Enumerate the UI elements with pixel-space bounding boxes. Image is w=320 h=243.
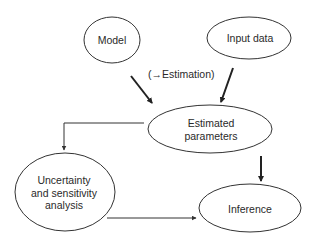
inference-label: Inference [228, 203, 272, 216]
uncertainty-text-line3: analysis [31, 199, 97, 212]
input-data-text: Input data [227, 32, 274, 44]
input-data-label: Input data [227, 32, 274, 45]
uncertainty-label: Uncertainty and sensitivity analysis [31, 174, 97, 212]
estimation-edge-label: (→Estimation) [148, 68, 215, 80]
uncertainty-text-line1: Uncertainty [31, 174, 97, 187]
arrow-model-to-estimated [131, 76, 152, 103]
inference-text: Inference [228, 203, 272, 215]
estimated-text-line1: Estimated [184, 117, 237, 130]
estimated-parameters-label: Estimated parameters [184, 117, 237, 142]
model-text: Model [98, 34, 127, 46]
uncertainty-text-line2: and sensitivity [31, 187, 97, 200]
arrow-input-to-estimated [221, 68, 233, 102]
arrow-estimated-to-uncertainty [64, 123, 144, 150]
estimated-text-line2: parameters [184, 129, 237, 142]
model-label: Model [98, 34, 127, 47]
